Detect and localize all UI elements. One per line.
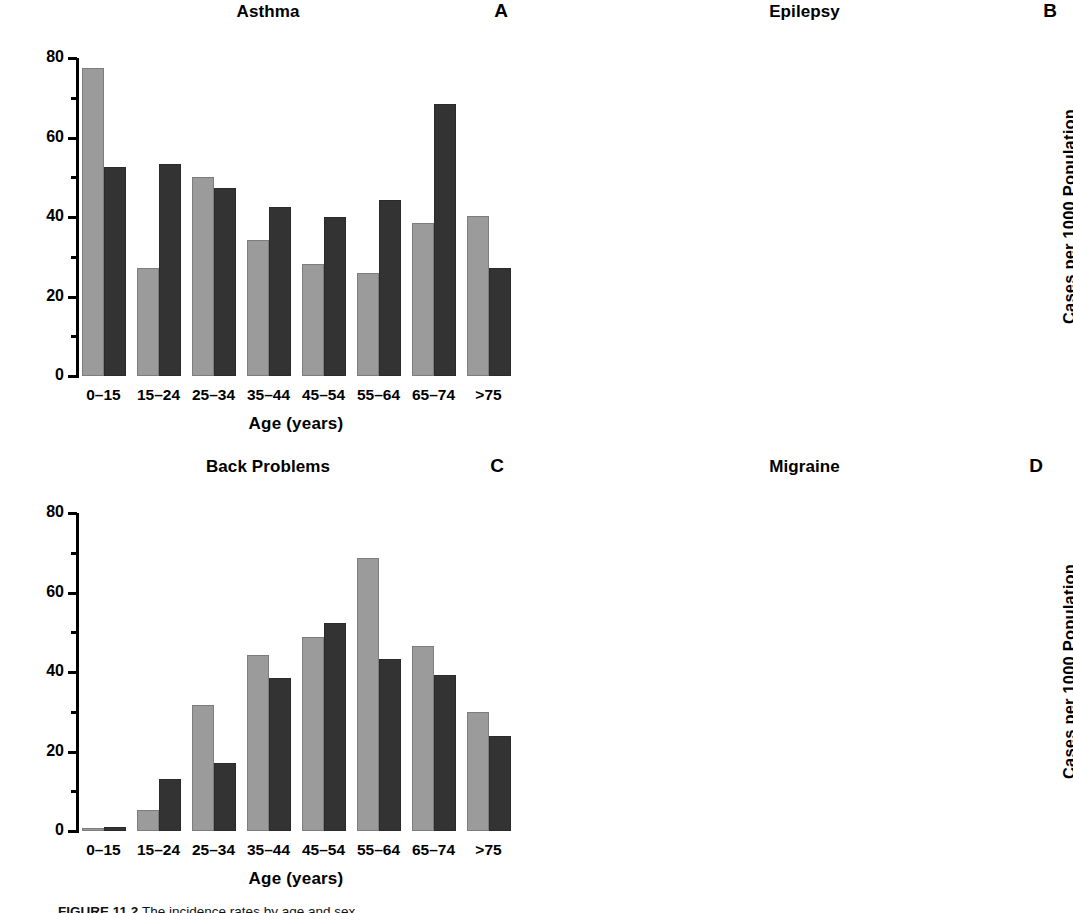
bar-light-4554	[302, 264, 324, 376]
y-axis-tick-major	[68, 830, 77, 833]
bar-dark-3544	[269, 678, 291, 831]
bar-light-5564	[357, 273, 379, 376]
bar-dark-6574	[434, 104, 456, 376]
y-axis-tick-minor	[71, 256, 77, 259]
bar-dark-2534	[214, 188, 236, 376]
x-axis-tick-label: 0–15	[76, 386, 131, 404]
bar-light-3544	[247, 655, 269, 831]
bar-dark-015	[104, 827, 126, 831]
x-axis-tick-label: >75	[461, 841, 516, 859]
bar-dark-4554	[324, 217, 346, 376]
y-axis-tick-minor	[71, 97, 77, 100]
x-axis-tick-label: 65–74	[406, 386, 461, 404]
bar-dark-75	[489, 268, 511, 376]
x-axis-tick-label: 0–15	[76, 841, 131, 859]
figure-caption-label: FIGURE 11.2	[58, 904, 138, 913]
bar-dark-2534	[214, 763, 236, 831]
y-axis-tick-label: 20	[14, 287, 64, 305]
bar-light-5564	[357, 558, 379, 831]
panel-asthma: Asthma A 020406080Cases per 1000 Populat…	[0, 0, 536, 455]
y-axis-tick-minor	[71, 176, 77, 179]
bar-light-2534	[192, 177, 214, 376]
y-axis-tick-minor	[71, 790, 77, 793]
bar-dark-015	[104, 167, 126, 376]
y-axis-tick-major	[68, 296, 77, 299]
bar-dark-4554	[324, 623, 346, 831]
x-axis-tick-label: 15–24	[131, 841, 186, 859]
plot-migraine: 0102030Cases per 1000 Population0–1515–2…	[536, 455, 1073, 913]
x-axis-tick-label: 55–64	[351, 386, 406, 404]
y-axis-tick-major	[68, 592, 77, 595]
bar-light-015	[82, 828, 104, 831]
y-axis-tick-major	[68, 137, 77, 140]
y-axis-tick-major	[68, 671, 77, 674]
y-axis-tick-major	[68, 57, 77, 60]
x-axis-tick-label: >75	[461, 386, 516, 404]
y-axis-tick-label: 40	[14, 207, 64, 225]
figure-panel-grid: Asthma A 020406080Cases per 1000 Populat…	[0, 0, 1073, 913]
y-axis-tick-minor	[71, 552, 77, 555]
bar-dark-5564	[379, 200, 401, 376]
y-axis-label: Cases per 1000 Population	[1060, 50, 1073, 384]
bar-light-75	[467, 712, 489, 831]
bar-light-6574	[412, 646, 434, 831]
x-axis-tick-label: 45–54	[296, 841, 351, 859]
y-axis-tick-label: 80	[14, 503, 64, 521]
x-axis-label: Age (years)	[76, 414, 516, 434]
plot-back-problems: 020406080Cases per 1000 Population0–1515…	[0, 455, 536, 913]
bar-dark-1524	[159, 779, 181, 831]
y-axis-tick-label: 60	[14, 128, 64, 146]
bar-dark-6574	[434, 675, 456, 831]
y-axis-tick-label: 0	[14, 821, 64, 839]
x-axis-label: Age (years)	[76, 869, 516, 889]
panel-migraine: Migraine D 0102030Cases per 1000 Populat…	[536, 455, 1073, 913]
bar-light-6574	[412, 223, 434, 376]
x-axis-tick-label: 35–44	[241, 841, 296, 859]
x-axis-tick-label: 35–44	[241, 386, 296, 404]
y-axis-tick-major	[68, 216, 77, 219]
figure-caption: FIGURE 11.2 The incidence rates by age a…	[58, 904, 355, 913]
panel-back-problems: Back Problems C 020406080Cases per 1000 …	[0, 455, 536, 913]
x-axis-tick-label: 55–64	[351, 841, 406, 859]
y-axis-tick-label: 60	[14, 583, 64, 601]
y-axis-tick-label: 0	[14, 366, 64, 384]
bar-light-3544	[247, 240, 269, 376]
bar-light-1524	[137, 268, 159, 376]
x-axis-tick-label: 25–34	[186, 386, 241, 404]
y-axis-tick-label: 80	[14, 48, 64, 66]
x-axis-tick-label: 25–34	[186, 841, 241, 859]
figure-caption-text: The incidence rates by age and sex	[142, 904, 355, 913]
bar-light-2534	[192, 705, 214, 831]
bar-light-015	[82, 68, 104, 376]
y-axis-tick-minor	[71, 631, 77, 634]
y-axis-tick-label: 20	[14, 742, 64, 760]
bar-light-4554	[302, 637, 324, 831]
x-axis-tick-label: 65–74	[406, 841, 461, 859]
bar-dark-1524	[159, 164, 181, 376]
plot-asthma: 020406080Cases per 1000 Population0–1515…	[0, 0, 536, 455]
y-axis-tick-major	[68, 375, 77, 378]
y-axis-tick-major	[68, 512, 77, 515]
y-axis-tick-minor	[71, 711, 77, 714]
y-axis-tick-minor	[71, 335, 77, 338]
y-axis-tick-label: 40	[14, 662, 64, 680]
bar-dark-75	[489, 736, 511, 831]
y-axis-tick-major	[68, 751, 77, 754]
plot-epilepsy: 051015Cases per 1000 Population0–1515–24…	[536, 0, 1073, 455]
bar-dark-5564	[379, 659, 401, 831]
panel-epilepsy: Epilepsy B 051015Cases per 1000 Populati…	[536, 0, 1073, 455]
bar-dark-3544	[269, 207, 291, 376]
bar-light-75	[467, 216, 489, 376]
x-axis-tick-label: 45–54	[296, 386, 351, 404]
y-axis-label: Cases per 1000 Population	[1060, 505, 1073, 839]
x-axis-tick-label: 15–24	[131, 386, 186, 404]
bar-light-1524	[137, 810, 159, 831]
